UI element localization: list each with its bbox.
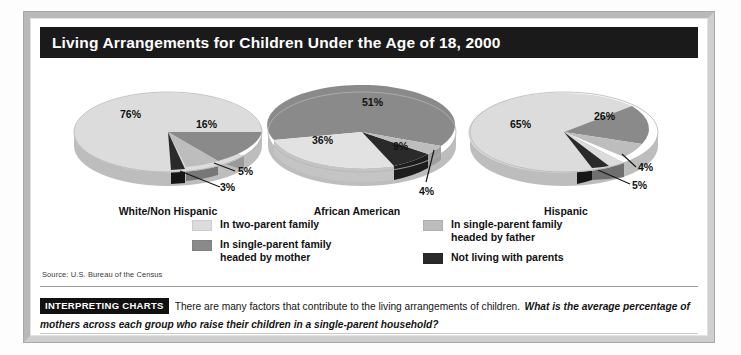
legend-item-mother: In single-parent family headed by mother: [192, 238, 402, 264]
page-title: Living Arrangements for Children Under t…: [40, 34, 501, 52]
chart-legend: In two-parent family In single-parent fa…: [40, 218, 698, 276]
slice-label: 9%: [393, 140, 409, 152]
pie-group-label: African American: [257, 205, 457, 217]
legend-item-two-parent: In two-parent family: [192, 218, 402, 231]
source-note: Source: U.S. Bureau of the Census: [42, 270, 162, 279]
slice-label: 5%: [632, 179, 648, 191]
slice-label: 51%: [362, 96, 384, 108]
pie-graphic-1: 76% 16% 5% 3%: [68, 70, 268, 210]
slice-label: 4%: [419, 185, 435, 197]
interpreting-charts-badge: INTERPRETING CHARTS: [40, 298, 169, 314]
legend-label: In single-parent family headed by mother: [220, 238, 331, 264]
legend-swatch-father: [423, 220, 443, 231]
pie-chart-hispanic: 65% 26% 4% 5% Hispanic: [464, 70, 664, 215]
chart-figure: Living Arrangements for Children Under t…: [0, 0, 741, 355]
pie-graphic-2: 51% 36% 9% 4%: [262, 70, 462, 210]
slice-label: 26%: [594, 110, 616, 122]
slice-label: 16%: [196, 118, 218, 130]
legend-column-right: In single-parent family headed by father…: [423, 218, 653, 271]
pie-graphic-3: 65% 26% 4% 5%: [464, 70, 664, 210]
figure-title-bar: Living Arrangements for Children Under t…: [40, 27, 698, 58]
figure-frame: Living Arrangements for Children Under t…: [24, 12, 714, 342]
slice-label: 3%: [220, 181, 236, 193]
legend-swatch-mother: [192, 240, 212, 251]
legend-label: In two-parent family: [220, 218, 319, 231]
slice-label: 76%: [120, 108, 142, 120]
legend-swatch-two-parent: [192, 220, 212, 231]
pie-chart-white-non-hispanic: 76% 16% 5% 3% White/Non Hispanic: [68, 70, 268, 215]
divider-top: [40, 286, 698, 287]
slice-label: 5%: [238, 165, 254, 177]
divider-bottom: [40, 333, 698, 334]
interpreting-charts-text: There are many factors that contribute t…: [175, 301, 520, 312]
pie-chart-row: 76% 16% 5% 3% White/Non Hispanic: [40, 70, 698, 215]
legend-label: In single-parent family headed by father: [451, 218, 562, 244]
figure-inner: Living Arrangements for Children Under t…: [30, 18, 708, 336]
legend-column-left: In two-parent family In single-parent fa…: [192, 218, 402, 271]
pie-group-label: White/Non Hispanic: [68, 205, 268, 217]
slice-label: 4%: [638, 161, 654, 173]
legend-swatch-no-parents: [423, 253, 443, 264]
pie-group-label: Hispanic: [466, 205, 666, 217]
slice-label: 65%: [510, 118, 532, 130]
interpreting-charts-block: INTERPRETING CHARTSThere are many factor…: [40, 296, 698, 332]
legend-item-father: In single-parent family headed by father: [423, 218, 653, 244]
legend-item-no-parents: Not living with parents: [423, 251, 653, 264]
slice-label: 36%: [312, 134, 334, 146]
legend-label: Not living with parents: [451, 251, 564, 264]
pie-chart-african-american: 51% 36% 9% 4% African American: [262, 70, 462, 215]
